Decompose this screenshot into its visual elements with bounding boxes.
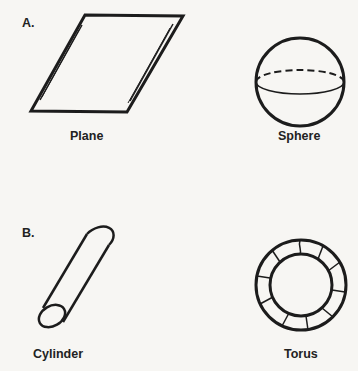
sphere-shape [256,38,344,126]
plane-label: Plane [70,129,103,143]
torus-label: Torus [284,347,318,361]
section-b-marker: B. [22,226,35,240]
plane-shape [31,15,183,112]
cylinder-label: Cylinder [33,347,83,361]
cylinder-shape [35,227,114,332]
shapes-diagram [0,0,358,371]
section-a-marker: A. [22,16,35,30]
sphere-label: Sphere [278,129,320,143]
torus-shape [256,240,346,330]
